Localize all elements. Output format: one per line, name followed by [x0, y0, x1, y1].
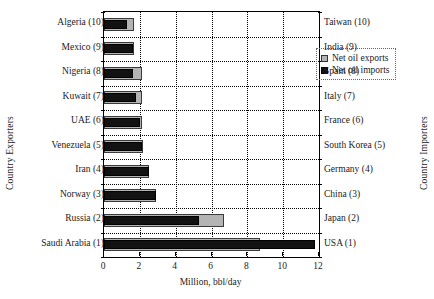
bar-net-oil-imports — [104, 93, 136, 102]
x-tick-label: 2 — [126, 261, 152, 271]
y-tick-right — [318, 12, 322, 13]
chart-row — [104, 208, 319, 233]
category-label-exporter: Saudi Arabia (1) — [41, 238, 104, 248]
legend-label-exports: Net oil exports — [332, 52, 388, 64]
category-label-exporter: Venezuela (5) — [52, 140, 104, 150]
y-tick-left — [101, 208, 105, 209]
x-tick-mark — [282, 252, 283, 256]
chart-row — [104, 233, 319, 258]
category-label-importer: China (3) — [324, 189, 360, 199]
x-tick-label: 12 — [305, 261, 331, 271]
legend-swatch-exports — [321, 55, 328, 62]
y-tick-right — [318, 233, 322, 234]
x-tick-label: 6 — [198, 261, 224, 271]
chart-row — [104, 61, 319, 86]
x-tick-mark — [103, 252, 104, 256]
category-label-importer: Taiwan (10) — [324, 17, 370, 27]
chart-row — [104, 37, 319, 62]
chart-row — [104, 159, 319, 184]
y-tick-right — [318, 184, 322, 185]
x-tick-label: 0 — [90, 261, 116, 271]
category-label-exporter: UAE (6) — [71, 115, 104, 125]
y-tick-right — [318, 86, 322, 87]
y-axis-title-right: Country Importers — [419, 115, 429, 191]
x-tick-label: 8 — [233, 261, 259, 271]
category-label-importer: India (9) — [324, 42, 357, 52]
bar-net-oil-imports — [104, 191, 156, 200]
x-tick-mark — [318, 252, 319, 256]
category-label-exporter: Algeria (10) — [57, 17, 104, 27]
category-label-importer: France (6) — [324, 115, 363, 125]
x-tick-label: 10 — [269, 261, 295, 271]
category-label-importer: Spain (8) — [324, 66, 359, 76]
bar-net-oil-imports — [104, 216, 199, 225]
y-tick-left — [101, 110, 105, 111]
x-tick-mark — [175, 252, 176, 256]
category-label-importer: South Korea (5) — [324, 140, 385, 150]
chart-figure: Country Exporters Country Importers Net … — [0, 0, 434, 299]
bar-net-oil-imports — [104, 240, 315, 249]
bar-net-oil-imports — [104, 20, 127, 29]
x-axis-title: Million, bbl/day — [103, 277, 318, 287]
chart-row — [104, 86, 319, 111]
y-tick-right — [318, 208, 322, 209]
x-tick-mark — [139, 252, 140, 256]
bar-net-oil-imports — [104, 167, 149, 176]
category-label-exporter: Russia (2) — [65, 213, 104, 223]
y-tick-right — [318, 135, 322, 136]
y-tick-left — [101, 184, 105, 185]
category-label-exporter: Norway (3) — [60, 189, 104, 199]
chart-row — [104, 184, 319, 209]
category-label-exporter: Iran (4) — [75, 164, 104, 174]
y-axis-title-left: Country Exporters — [5, 115, 15, 191]
category-label-exporter: Kuwait (7) — [63, 91, 104, 101]
y-tick-right — [318, 257, 322, 258]
y-tick-left — [101, 135, 105, 136]
legend-item-exports: Net oil exports — [321, 52, 390, 64]
y-tick-left — [101, 12, 105, 13]
y-tick-left — [101, 61, 105, 62]
y-tick-left — [101, 86, 105, 87]
y-tick-left — [101, 37, 105, 38]
category-label-exporter: Mexico (9) — [62, 42, 104, 52]
x-tick-mark — [246, 252, 247, 256]
bar-net-oil-imports — [104, 44, 133, 53]
category-label-exporter: Nigeria (8) — [62, 66, 104, 76]
bar-net-oil-imports — [104, 142, 142, 151]
chart-row — [104, 110, 319, 135]
y-tick-left — [101, 257, 105, 258]
x-tick-label: 4 — [162, 261, 188, 271]
y-tick-right — [318, 159, 322, 160]
y-tick-left — [101, 159, 105, 160]
category-label-importer: Germany (4) — [324, 164, 373, 174]
chart-row — [104, 135, 319, 160]
y-tick-right — [318, 37, 322, 38]
category-label-importer: Italy (7) — [324, 91, 355, 101]
chart-row — [104, 12, 319, 37]
bar-net-oil-imports — [104, 69, 133, 78]
category-label-importer: Japan (2) — [324, 213, 359, 223]
category-label-importer: USA (1) — [324, 238, 356, 248]
plot-area: Net oil exports Net oil imports — [103, 11, 320, 258]
bar-net-oil-imports — [104, 118, 140, 127]
y-tick-left — [101, 233, 105, 234]
y-tick-right — [318, 110, 322, 111]
x-tick-mark — [211, 252, 212, 256]
